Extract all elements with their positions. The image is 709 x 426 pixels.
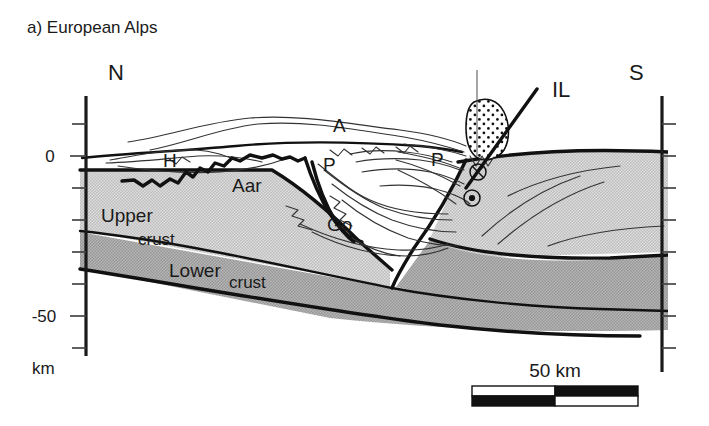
insubric-line-label: IL (552, 77, 570, 102)
page-title: a) European Alps (27, 18, 157, 37)
axis-label-minus50: -50 (32, 307, 57, 326)
cross-section-svg: a) European Alps N S 0 -50 km H Aar A P … (0, 0, 709, 426)
south-label: S (629, 60, 644, 85)
unit-label-aar: Aar (232, 175, 262, 196)
unit-label-gotthard: Go (327, 214, 352, 235)
upper-crust-label-line1: Upper (101, 205, 153, 226)
scale-bar (472, 386, 638, 406)
penninic-sliver-2 (356, 159, 460, 170)
ivrea-body (466, 99, 509, 159)
unit-label-penninic-west: P (323, 154, 336, 175)
unit-label-helvetic: H (163, 150, 177, 171)
figure-root: a) European Alps N S 0 -50 km H Aar A P … (0, 0, 709, 426)
unit-label-austroalpine: A (333, 115, 346, 136)
axis-unit-label: km (32, 359, 55, 378)
penninic-sliver-3 (362, 169, 464, 184)
upper-crust-label-line2: crust (138, 230, 175, 249)
axis-label-zero: 0 (45, 147, 54, 166)
unit-label-penninic-east: P (431, 149, 444, 170)
adriatic-upper-crust (430, 150, 668, 258)
north-label: N (108, 60, 124, 85)
lower-crust-label-line1: Lower (169, 260, 221, 281)
lower-crust-label-line2: crust (229, 273, 266, 292)
scale-bar-label: 50 km (529, 360, 581, 381)
